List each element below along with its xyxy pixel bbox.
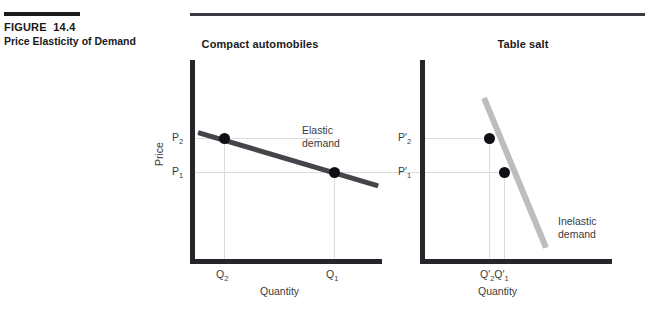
y-tick-price-high-right: P′2 — [398, 131, 411, 146]
x-tick-qty-left-left: Q2 — [216, 268, 228, 283]
data-point-p1-q1 — [329, 167, 340, 178]
gridline-price-high-right — [422, 138, 490, 139]
x-tick-qty-pair-right: Q′2Q′1 — [480, 268, 509, 283]
chart-panel-table-salt: Table salt P′2 P′1 Q′2Q′1 Quantity Inela… — [390, 30, 656, 314]
gridline-qty-left-right — [489, 138, 490, 260]
data-point-p1-prime-q1-prime — [499, 167, 510, 178]
x-axis-left — [190, 259, 382, 264]
figure-caption: FIGURE 14.4 Price Elasticity of Demand — [4, 20, 154, 48]
data-point-p2-prime-q2-prime — [484, 133, 495, 144]
y-axis-left — [190, 60, 195, 263]
annotation-inelastic-line1: Inelastic — [558, 215, 597, 228]
y-axis-right — [420, 60, 425, 263]
y-tick-price-low-left: P1 — [172, 165, 183, 180]
annotation-elastic-demand: Elastic demand — [302, 124, 340, 150]
chart-title-left: Compact automobiles — [140, 38, 380, 50]
gridline-qty-right-left — [334, 172, 335, 260]
figure-number: FIGURE 14.4 — [4, 20, 154, 34]
annotation-inelastic-line2: demand — [558, 228, 597, 241]
figure-top-rule — [190, 13, 645, 16]
x-axis-title-left: Quantity — [260, 285, 299, 297]
y-tick-price-low-right: P′1 — [398, 165, 411, 180]
annotation-inelastic-demand: Inelastic demand — [558, 215, 597, 241]
x-axis-right — [420, 259, 612, 264]
annotation-elastic-line2: demand — [302, 137, 340, 150]
y-axis-title-left: Price — [153, 142, 165, 166]
caption-rule — [4, 12, 80, 16]
chart-title-right: Table salt — [390, 38, 656, 50]
annotation-elastic-line1: Elastic — [302, 124, 340, 137]
y-tick-price-high-left: P2 — [172, 131, 183, 146]
gridline-price-low-right — [422, 172, 505, 173]
data-point-p2-q2 — [219, 133, 230, 144]
gridline-qty-left-left — [224, 138, 225, 260]
x-axis-title-right: Quantity — [478, 285, 517, 297]
gridline-qty-right-right — [504, 172, 505, 260]
chart-panel-compact-automobiles: Compact automobiles P2 P1 Q2 Q1 Price Qu… — [150, 30, 390, 314]
figure-title: Price Elasticity of Demand — [4, 34, 154, 48]
x-tick-qty-right-left: Q1 — [326, 268, 338, 283]
